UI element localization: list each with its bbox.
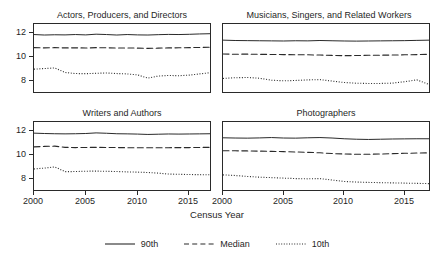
x-tick-mark — [343, 191, 344, 195]
y-tick-label: 12 — [3, 28, 26, 37]
y-tick-mark — [29, 80, 33, 81]
x-tick-label: 2000 — [208, 197, 236, 206]
x-tick-label: 2005 — [269, 197, 297, 206]
legend-label-90th: 90th — [141, 239, 159, 249]
series-line-10th — [34, 167, 210, 175]
x-tick-mark — [222, 191, 223, 195]
x-tick-label: 2010 — [123, 197, 151, 206]
series-line-10th — [34, 68, 210, 78]
series-line-10th — [223, 77, 429, 84]
x-axis-title: Census Year — [0, 209, 434, 220]
panel-actors-producers-directors: Actors, Producers, and Directors — [0, 10, 213, 106]
y-tick-mark — [29, 178, 33, 179]
legend-label-10th: 10th — [312, 239, 330, 249]
y-tick-mark — [29, 154, 33, 155]
x-tick-label: 2000 — [19, 197, 47, 206]
plot-area-top-right — [222, 23, 430, 93]
x-tick-mark — [85, 191, 86, 195]
y-tick-label: 8 — [3, 76, 26, 85]
series-line-median — [223, 151, 429, 155]
plot-lines-bottom-left — [34, 122, 211, 191]
x-tick-label: 2015 — [390, 197, 418, 206]
x-tick-mark — [137, 191, 138, 195]
series-line-90th — [223, 138, 429, 140]
series-line-10th — [223, 175, 429, 184]
series-line-90th — [34, 133, 210, 135]
y-tick-label: 12 — [3, 126, 26, 135]
panel-writers-authors: Writers and Authors — [0, 108, 213, 204]
plot-area-top-left — [33, 23, 211, 93]
series-line-median — [223, 54, 429, 56]
series-line-median — [34, 146, 210, 148]
panel-title-top-left: Actors, Producers, and Directors — [33, 10, 211, 21]
series-line-90th — [223, 40, 429, 41]
legend-label-median: Median — [220, 239, 250, 249]
series-line-median — [34, 47, 210, 48]
plot-lines-top-right — [223, 24, 430, 93]
x-tick-mark — [188, 191, 189, 195]
plot-area-bottom-right — [222, 121, 430, 191]
legend-item-10th: 10th — [276, 239, 330, 249]
x-tick-label: 2005 — [71, 197, 99, 206]
legend-key-solid-icon — [105, 240, 135, 248]
x-tick-label: 2010 — [329, 197, 357, 206]
y-tick-mark — [29, 130, 33, 131]
panel-title-bottom-right: Photographers — [222, 108, 430, 119]
chart-figure: Actors, Producers, and Directors Musicia… — [0, 0, 434, 264]
x-tick-mark — [33, 191, 34, 195]
chart-legend: 90th Median 10th — [0, 239, 434, 249]
y-tick-mark — [29, 56, 33, 57]
legend-key-dashed-icon — [184, 240, 214, 248]
y-tick-label: 8 — [3, 174, 26, 183]
plot-lines-top-left — [34, 24, 211, 93]
y-tick-label: 10 — [3, 52, 26, 61]
plot-area-bottom-left — [33, 121, 211, 191]
y-tick-mark — [29, 32, 33, 33]
legend-item-90th: 90th — [105, 239, 159, 249]
panel-title-bottom-left: Writers and Authors — [33, 108, 211, 119]
panel-photographers: Photographers — [213, 108, 434, 204]
panel-title-top-right: Musicians, Singers, and Related Workers — [222, 10, 434, 21]
legend-key-dotted-icon — [276, 240, 306, 248]
legend-item-median: Median — [184, 239, 250, 249]
plot-lines-bottom-right — [223, 122, 430, 191]
y-tick-label: 10 — [3, 150, 26, 159]
panel-musicians-singers: Musicians, Singers, and Related Workers — [213, 10, 434, 106]
x-tick-mark — [283, 191, 284, 195]
x-tick-label: 2015 — [174, 197, 202, 206]
x-tick-mark — [404, 191, 405, 195]
series-line-90th — [34, 34, 210, 35]
